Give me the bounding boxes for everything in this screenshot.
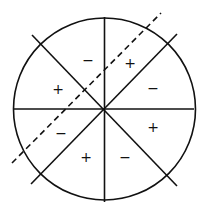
sector-diagram: −++−−++−: [0, 0, 204, 214]
plus-sign: +: [80, 149, 92, 165]
minus-sign: −: [119, 149, 131, 165]
dashed-line: [12, 13, 161, 163]
minus-sign: −: [82, 52, 94, 68]
plus-sign: +: [124, 55, 136, 71]
plus-sign: +: [147, 119, 159, 135]
minus-sign: −: [55, 125, 67, 141]
plus-sign: +: [52, 81, 64, 97]
minus-sign: −: [147, 80, 159, 96]
